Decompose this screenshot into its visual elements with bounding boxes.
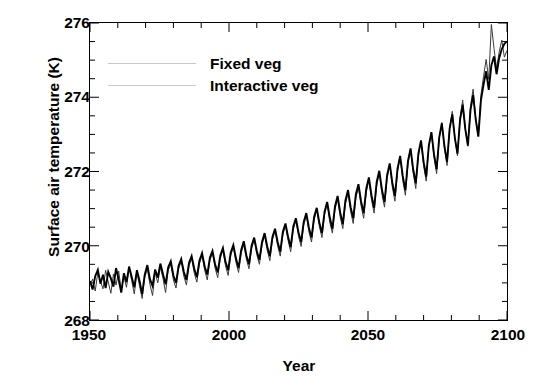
plot-canvas <box>90 23 507 320</box>
y-tick-label-276: 276 <box>30 15 90 31</box>
x-tick-label-2000: 2000 <box>189 327 269 343</box>
x-tick-label-2050: 2050 <box>328 327 408 343</box>
legend-label-fixed-veg: Fixed veg <box>210 56 282 72</box>
legend-label-interactive-veg: Interactive veg <box>210 78 319 94</box>
y-axis-title: Surface air temperature (K) <box>45 7 63 307</box>
legend-swatch-interactive-veg <box>108 85 196 86</box>
legend-swatch-fixed-veg <box>108 63 196 64</box>
plot-area: Fixed veg Interactive veg <box>89 22 508 321</box>
y-tick-label-274: 274 <box>30 89 90 105</box>
y-tick-label-272: 272 <box>30 164 90 180</box>
chart-figure: Surface air temperature (K) 276 274 272 … <box>0 0 552 387</box>
y-tick-label-270: 270 <box>30 239 90 255</box>
x-axis-title: Year <box>89 357 509 375</box>
x-tick-label-1950: 1950 <box>49 327 129 343</box>
x-tick-label-2100: 2100 <box>468 327 548 343</box>
